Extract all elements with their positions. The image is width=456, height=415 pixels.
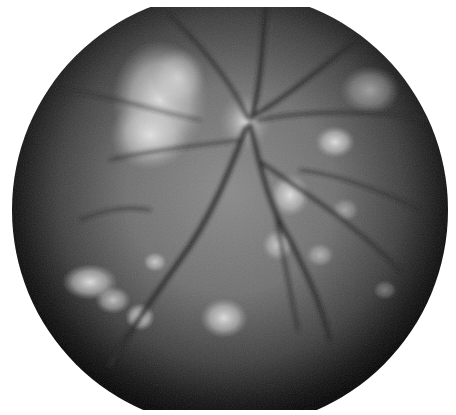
fundus-photograph	[0, 0, 456, 415]
retina-field	[0, 0, 456, 415]
